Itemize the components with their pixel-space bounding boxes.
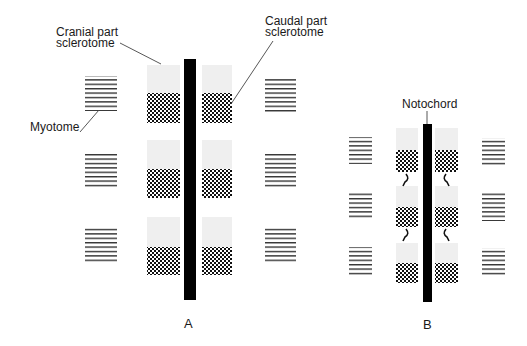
cranial-leader-line [120,43,161,64]
cranial-label-line2: sclerotome [56,36,115,50]
somite-diagram: Cranial part sclerotome Caudal part scle… [0,0,527,346]
panel-a-label: A [184,316,193,331]
leader-lines [80,41,427,132]
notochord-label: Notochord [402,97,457,111]
myotome-leader-line [80,110,99,132]
notochord-bar-b [423,124,432,302]
panel-b [349,124,505,302]
panel-a [85,59,296,300]
myotome-label: Myotome [30,120,80,134]
notochord-bar-a [184,59,196,300]
caudal-label-line2: sclerotome [265,25,324,39]
panel-b-label: B [423,317,432,332]
